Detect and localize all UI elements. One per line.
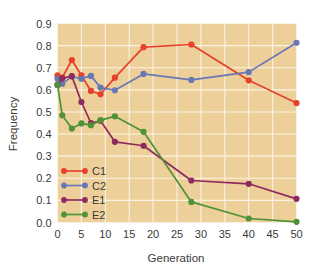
- legend-swatch-dot: [82, 168, 88, 174]
- legend-swatch-dot: [61, 168, 67, 174]
- data-point: [293, 40, 299, 46]
- data-point: [140, 44, 146, 50]
- x-tick-label: 30: [195, 228, 207, 240]
- data-point: [188, 177, 194, 183]
- data-point: [112, 75, 118, 81]
- y-tick-label: 0.9: [36, 18, 51, 30]
- legend-swatch-dot: [82, 197, 88, 203]
- legend-swatch-dot: [61, 183, 67, 189]
- legend-swatch-dot: [61, 212, 67, 218]
- data-point: [140, 71, 146, 77]
- data-point: [246, 69, 252, 75]
- data-point: [54, 82, 60, 88]
- data-point: [188, 77, 194, 83]
- x-tick-label: 25: [171, 228, 183, 240]
- data-point: [88, 122, 94, 128]
- data-point: [246, 77, 252, 83]
- y-tick-label: 0.5: [36, 106, 51, 118]
- legend-label: E2: [92, 209, 105, 221]
- data-point: [69, 125, 75, 131]
- legend-label: C2: [92, 180, 106, 192]
- data-point: [59, 112, 65, 118]
- x-tick-label: 40: [243, 228, 255, 240]
- data-point: [246, 215, 252, 221]
- y-tick-label: 0.2: [36, 172, 51, 184]
- legend-label: C1: [92, 165, 106, 177]
- line-chart: 0.00.10.20.30.40.50.60.70.80.9 051015202…: [0, 0, 318, 269]
- data-point: [246, 181, 252, 187]
- data-point: [78, 76, 84, 82]
- x-tick-label: 15: [123, 228, 135, 240]
- data-point: [140, 143, 146, 149]
- y-tick-label: 0.7: [36, 62, 51, 74]
- data-point: [293, 219, 299, 225]
- y-tick-label: 0.6: [36, 84, 51, 96]
- data-point: [112, 139, 118, 145]
- data-point: [188, 41, 194, 47]
- y-axis-title: Frequency: [7, 97, 19, 152]
- data-point: [78, 99, 84, 105]
- x-tick-label: 20: [147, 228, 159, 240]
- x-tick-label: 35: [219, 228, 231, 240]
- data-point: [69, 73, 75, 79]
- data-point: [97, 85, 103, 91]
- data-point: [97, 117, 103, 123]
- data-point: [112, 87, 118, 93]
- x-tick-label: 10: [99, 228, 111, 240]
- chart-figure: 0.00.10.20.30.40.50.60.70.80.9 051015202…: [0, 0, 318, 269]
- y-tick-label: 0.4: [36, 128, 51, 140]
- x-tick-label: 0: [54, 228, 60, 240]
- data-point: [140, 129, 146, 135]
- data-point: [88, 73, 94, 79]
- data-point: [293, 196, 299, 202]
- y-tick-label: 0.0: [36, 217, 51, 229]
- data-point: [78, 120, 84, 126]
- y-tick-label: 0.8: [36, 40, 51, 52]
- data-point: [59, 75, 65, 81]
- data-point: [112, 113, 118, 119]
- legend-swatch-dot: [82, 212, 88, 218]
- x-tick-label: 50: [290, 228, 302, 240]
- y-axis-tick-labels: 0.00.10.20.30.40.50.60.70.80.9: [36, 18, 51, 229]
- data-point: [188, 199, 194, 205]
- data-point: [88, 88, 94, 94]
- legend-swatch-dot: [82, 183, 88, 189]
- x-tick-label: 45: [266, 228, 278, 240]
- x-axis-tick-labels: 05101520253035404550: [54, 228, 302, 240]
- legend-swatch-dot: [61, 197, 67, 203]
- data-point: [69, 57, 75, 63]
- data-point: [293, 100, 299, 106]
- legend-label: E1: [92, 194, 105, 206]
- y-tick-label: 0.3: [36, 150, 51, 162]
- x-tick-label: 5: [78, 228, 84, 240]
- x-axis-title: Generation: [148, 252, 205, 264]
- data-point: [97, 91, 103, 97]
- y-tick-label: 0.1: [36, 194, 51, 206]
